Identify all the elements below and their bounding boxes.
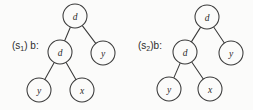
node-label: x xyxy=(79,86,85,96)
tree-diagram-s1: (s1) b: ddyyx xyxy=(0,0,126,110)
binary-tree-figure: (s1) b: ddyyx (s2)b: ddyyx xyxy=(0,0,253,110)
tree-diagram-s2: (s2)b: ddyyx xyxy=(126,0,253,110)
tree-edge xyxy=(44,61,55,81)
tree-edge xyxy=(191,26,202,43)
tree-node-right-leaf: x xyxy=(70,78,94,102)
tree-svg-s2: ddyyx xyxy=(126,0,253,110)
tree-edge xyxy=(191,61,204,81)
node-label: d xyxy=(205,13,210,23)
tree-node-left-child: d xyxy=(173,40,197,64)
tree-edge xyxy=(81,24,96,44)
node-label: y xyxy=(100,49,106,59)
tree-node-left-leaf: y xyxy=(157,77,181,101)
node-label: y xyxy=(36,86,42,96)
node-label: d xyxy=(73,12,78,22)
tree-node-right-child: y xyxy=(219,41,243,65)
tree-svg-s1: ddyyx xyxy=(0,0,126,110)
tree-edge xyxy=(173,62,181,80)
tree-edge xyxy=(64,26,71,43)
tree-node-left-child: d xyxy=(48,40,72,64)
tree-node-left-leaf: y xyxy=(27,78,51,102)
tree-node-right-child: y xyxy=(91,41,115,65)
tree-edge xyxy=(65,61,76,81)
tree-node-right-leaf: x xyxy=(198,77,222,101)
node-label: d xyxy=(183,48,188,58)
tree-node-root: d xyxy=(63,4,87,28)
node-label: x xyxy=(207,85,213,95)
node-label: y xyxy=(166,85,172,95)
node-label: d xyxy=(58,48,63,58)
node-label: y xyxy=(228,49,234,59)
tree-node-root: d xyxy=(195,5,219,29)
tree-edge xyxy=(213,26,225,45)
